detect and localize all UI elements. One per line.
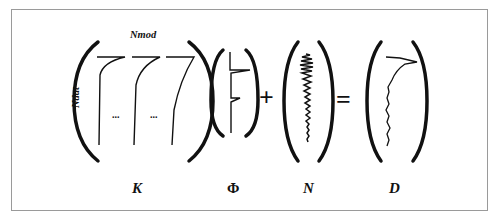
- model-profile: [230, 52, 250, 133]
- label-ndat: Ndat: [70, 86, 81, 109]
- label-k: K: [131, 180, 143, 196]
- label-nmod: Nmod: [129, 29, 157, 40]
- kernel-curve-1: [97, 57, 125, 145]
- n-right-paren: [319, 42, 333, 161]
- matrix-equation-diagram: ... ... Nmod Ndat K Φ + N = D: [0, 0, 499, 223]
- label-phi: Φ: [227, 180, 239, 196]
- plus-operator: +: [259, 83, 274, 112]
- phi-left-paren: [211, 50, 223, 136]
- phi-right-paren: [246, 50, 258, 136]
- matrix-k: ... ... Nmod Ndat K: [70, 29, 213, 196]
- kernel-curve-2: [132, 57, 160, 145]
- vector-phi: Φ: [211, 50, 258, 196]
- vector-n: N: [284, 42, 333, 196]
- data-profile: [386, 57, 417, 146]
- kernel-curve-3: [166, 57, 194, 145]
- ellipsis-1: ...: [112, 109, 120, 120]
- equals-operator: =: [336, 85, 351, 114]
- ellipsis-2: ...: [150, 109, 158, 120]
- vector-d: D: [367, 42, 427, 196]
- label-d: D: [388, 180, 400, 196]
- label-n: N: [302, 180, 315, 196]
- d-right-paren: [413, 42, 427, 161]
- n-left-paren: [284, 42, 298, 161]
- noise-signal: [300, 54, 313, 142]
- d-left-paren: [367, 42, 381, 161]
